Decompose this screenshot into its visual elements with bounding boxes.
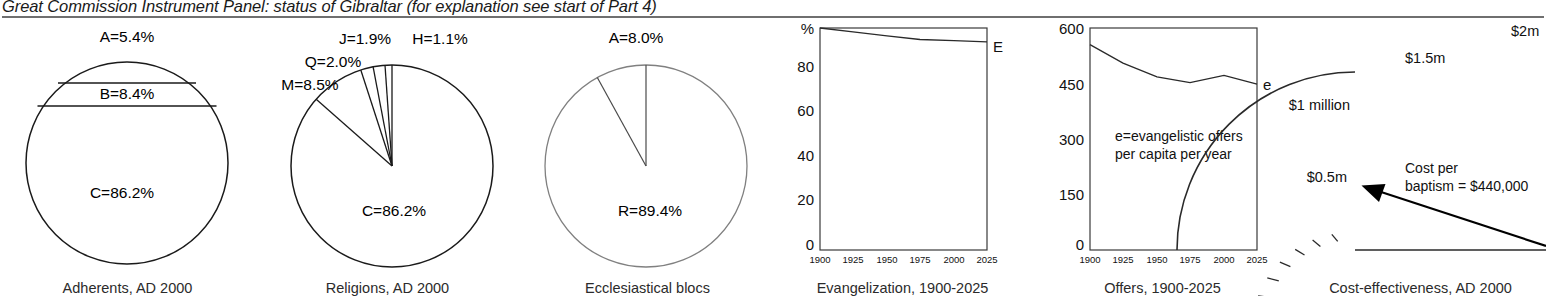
page-title: Great Commission Instrument Panel: statu… xyxy=(2,0,657,16)
gauge-label-two-million: $2m xyxy=(1511,23,1539,39)
y-axis-unit-label: % xyxy=(801,20,814,37)
offers-svg: 600 450 300 150 0 1900 1925 1950 1975 20… xyxy=(1030,18,1295,280)
series-label-E: E xyxy=(993,38,1003,55)
blocs-svg: A=8.0% R=89.4% xyxy=(520,18,775,280)
adherents-svg: A=5.4% B=8.4% C=86.2% xyxy=(0,18,255,280)
caption-adherents: Adherents, AD 2000 xyxy=(0,280,255,296)
caption-offers: Offers, 1900-2025 xyxy=(1030,280,1295,296)
y-tick-300: 300 xyxy=(1059,131,1084,148)
x-tick-1975: 1975 xyxy=(1179,254,1200,265)
x-tick-1950: 1950 xyxy=(1146,254,1167,265)
evangelization-x-ticks: 1900 1925 1950 1975 2000 2025 xyxy=(809,254,997,265)
y-tick-20: 20 xyxy=(797,191,814,208)
chart-religions: J=1.9% H=1.1% Q=2.0% M=8.5% C=86.2% Reli… xyxy=(255,18,520,295)
x-tick-1900: 1900 xyxy=(1079,254,1100,265)
x-tick-1975: 1975 xyxy=(909,254,930,265)
x-tick-1925: 1925 xyxy=(1112,254,1133,265)
y-tick-0: 0 xyxy=(1076,236,1084,253)
religions-label-j: J=1.9% xyxy=(339,30,391,47)
offers-y-ticks: 600 450 300 150 0 xyxy=(1059,20,1084,253)
x-tick-2000: 2000 xyxy=(943,254,964,265)
x-tick-1925: 1925 xyxy=(842,254,863,265)
offers-x-ticks: 1900 1925 1950 1975 2000 2025 xyxy=(1079,254,1267,265)
blocs-pie xyxy=(545,65,747,267)
adherents-label-a: A=5.4% xyxy=(100,28,155,45)
caption-cost-effectiveness: Cost-effectiveness, AD 2000 xyxy=(1295,280,1546,296)
x-tick-1950: 1950 xyxy=(876,254,897,265)
y-tick-450: 450 xyxy=(1059,76,1084,93)
religions-label-c: C=86.2% xyxy=(362,202,426,219)
adherents-label-b: B=8.4% xyxy=(100,85,155,102)
religions-svg: J=1.9% H=1.1% Q=2.0% M=8.5% C=86.2% xyxy=(255,18,520,280)
religions-pie xyxy=(291,65,493,267)
y-tick-600: 600 xyxy=(1059,20,1084,37)
offers-annotation-line2: per capita per year xyxy=(1115,146,1232,162)
chart-evangelization: % 80 60 40 20 0 1900 1925 1950 1975 2000… xyxy=(775,18,1030,295)
chart-offers: 600 450 300 150 0 1900 1925 1950 1975 20… xyxy=(1030,18,1295,295)
religions-label-h: H=1.1% xyxy=(412,30,468,47)
gauge-annotation-line1: Cost per xyxy=(1405,160,1458,176)
gauge-label-one-million: $1 million xyxy=(1289,97,1350,113)
y-tick-40: 40 xyxy=(797,147,814,164)
x-tick-2025: 2025 xyxy=(976,254,997,265)
gauge-label-one-half-million: $1.5m xyxy=(1405,50,1445,66)
evangelization-y-ticks: % 80 60 40 20 0 xyxy=(797,20,814,253)
series-label-e: e xyxy=(1263,76,1271,93)
religions-label-m: M=8.5% xyxy=(281,76,339,93)
caption-religions: Religions, AD 2000 xyxy=(255,280,520,296)
x-tick-2025: 2025 xyxy=(1246,254,1267,265)
religions-label-q: Q=2.0% xyxy=(305,53,362,70)
caption-evangelization: Evangelization, 1900-2025 xyxy=(775,280,1030,296)
gauge-label-half-million: $0.5m xyxy=(1307,169,1347,185)
blocs-label-a: A=8.0% xyxy=(609,29,664,46)
gauge-annotation-line2: baptism = $440,000 xyxy=(1405,178,1529,194)
chart-cost-effectiveness: $0.5m $1 million $1.5m $2m Cost per bapt… xyxy=(1295,18,1546,295)
caption-blocs: Ecclesiastical blocs xyxy=(520,280,775,296)
gauge-svg: $0.5m $1 million $1.5m $2m Cost per bapt… xyxy=(1295,18,1546,280)
y-tick-80: 80 xyxy=(797,58,814,75)
x-tick-1900: 1900 xyxy=(809,254,830,265)
y-tick-60: 60 xyxy=(797,102,814,119)
evangelization-axes xyxy=(820,28,987,250)
evangelization-svg: % 80 60 40 20 0 1900 1925 1950 1975 2000… xyxy=(775,18,1030,280)
chart-blocs: A=8.0% R=89.4% Ecclesiastical blocs xyxy=(520,18,775,295)
adherents-label-c: C=86.2% xyxy=(90,184,154,201)
x-tick-2000: 2000 xyxy=(1213,254,1234,265)
y-tick-0: 0 xyxy=(806,236,814,253)
chart-adherents: A=5.4% B=8.4% C=86.2% Adherents, AD 2000 xyxy=(0,18,255,295)
y-tick-150: 150 xyxy=(1059,186,1084,203)
blocs-label-r: R=89.4% xyxy=(618,202,682,219)
